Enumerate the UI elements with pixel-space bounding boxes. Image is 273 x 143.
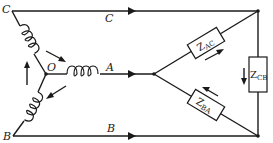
- node-top-right: [256, 9, 260, 13]
- arrow-line-b: [128, 132, 136, 140]
- wire-c-coil: [12, 11, 20, 26]
- coil-a: [67, 66, 98, 76]
- wire-o-coil-b: [38, 74, 46, 92]
- arrow-ac: [205, 52, 220, 60]
- label-line-a: A: [105, 61, 114, 74]
- coil-c: [18, 23, 41, 55]
- circuit-diagram: ZAC ZBA ZCB C B O C A B: [0, 0, 273, 143]
- wire-coil-o-c: [34, 54, 46, 74]
- label-line-c: C: [105, 12, 114, 25]
- label-node-c: C: [2, 3, 11, 16]
- label-node-b: B: [2, 130, 11, 143]
- arrow-line-a: [128, 70, 136, 78]
- impedance-ba: ZBA: [187, 89, 224, 120]
- node-bottom-right: [256, 134, 260, 138]
- wire-coil-b-node: [13, 121, 24, 136]
- label-line-b: B: [106, 122, 115, 135]
- arrow-line-c: [128, 7, 136, 15]
- label-node-o: O: [47, 61, 56, 74]
- coil-b: [23, 91, 45, 123]
